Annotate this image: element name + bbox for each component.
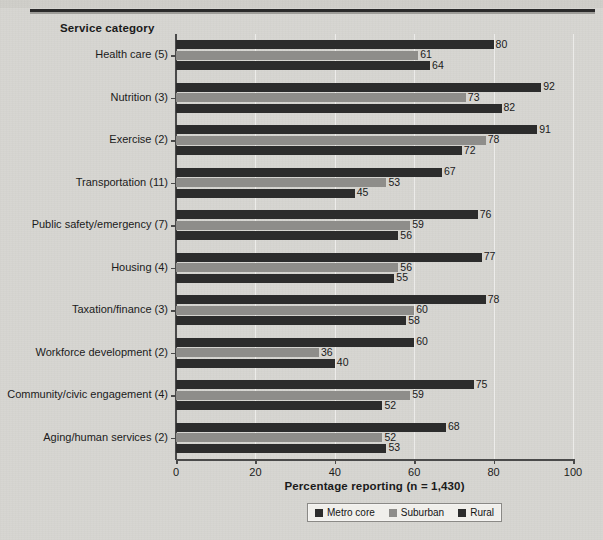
category-tick xyxy=(171,98,176,100)
chart-legend: Metro coreSuburbanRural xyxy=(307,503,502,522)
legend-swatch-icon xyxy=(389,509,397,517)
x-tick-label-40: 40 xyxy=(329,466,341,478)
category-label: Housing (4) xyxy=(0,261,168,273)
bar-value-label: 72 xyxy=(464,146,476,155)
bar-rural xyxy=(176,146,462,155)
category-tick xyxy=(171,183,176,185)
x-axis-line xyxy=(176,459,574,461)
category-label: Health care (5) xyxy=(0,48,168,60)
x-tick-100 xyxy=(573,459,575,464)
category-tick xyxy=(171,55,176,57)
bar-sub xyxy=(176,391,410,400)
bar-rural xyxy=(176,274,394,283)
bar-rural xyxy=(176,189,355,198)
bar-value-label: 92 xyxy=(543,82,555,91)
bar-value-label: 45 xyxy=(357,188,369,197)
bar-group: 685253 xyxy=(176,417,573,460)
bar-value-label: 82 xyxy=(504,103,516,112)
bar-value-label: 58 xyxy=(408,316,420,325)
bar-sub xyxy=(176,433,382,442)
bar-sub xyxy=(176,348,319,357)
bar-rural xyxy=(176,401,382,410)
bar-rural xyxy=(176,359,335,368)
bar-metro xyxy=(176,253,482,262)
bar-value-label: 52 xyxy=(384,401,396,410)
bar-rural xyxy=(176,316,406,325)
category-label: Community/civic engagement (4) xyxy=(0,388,168,400)
bar-sub xyxy=(176,178,386,187)
category-tick xyxy=(171,438,176,440)
bar-metro xyxy=(176,40,494,49)
bar-value-label: 55 xyxy=(396,273,408,282)
bar-rural xyxy=(176,61,430,70)
legend-label: Metro core xyxy=(327,507,375,518)
bar-metro xyxy=(176,338,414,347)
bar-sub xyxy=(176,221,410,230)
bar-rural xyxy=(176,444,386,453)
bar-value-label: 60 xyxy=(416,337,428,346)
legend-label: Rural xyxy=(470,507,494,518)
bar-group: 786058 xyxy=(176,289,573,332)
bar-group: 603640 xyxy=(176,332,573,375)
legend-label: Suburban xyxy=(401,507,444,518)
bar-value-label: 53 xyxy=(388,178,400,187)
top-rule-shadow xyxy=(30,12,595,14)
category-label: Public safety/emergency (7) xyxy=(0,218,168,230)
legend-swatch-icon xyxy=(458,509,466,517)
bar-metro xyxy=(176,295,486,304)
bar-sub xyxy=(176,306,414,315)
legend-item: Suburban xyxy=(389,507,444,518)
bar-value-label: 60 xyxy=(416,305,428,314)
bar-metro xyxy=(176,380,474,389)
bar-group: 675345 xyxy=(176,162,573,205)
bar-value-label: 53 xyxy=(388,443,400,452)
legend-swatch-icon xyxy=(315,509,323,517)
x-tick-label-60: 60 xyxy=(408,466,420,478)
figure-chart: Service category 806164Health care (5)92… xyxy=(0,0,603,540)
bar-metro xyxy=(176,423,446,432)
gridline-100 xyxy=(573,34,574,459)
bar-group: 806164 xyxy=(176,34,573,77)
bar-value-label: 73 xyxy=(468,93,480,102)
bar-rural xyxy=(176,104,502,113)
category-label: Transportation (11) xyxy=(0,176,168,188)
category-label: Exercise (2) xyxy=(0,133,168,145)
category-tick xyxy=(171,353,176,355)
y-axis-title: Service category xyxy=(60,22,154,34)
category-tick xyxy=(171,140,176,142)
x-tick-20 xyxy=(255,459,257,464)
category-tick xyxy=(171,395,176,397)
bar-value-label: 78 xyxy=(488,135,500,144)
bar-value-label: 91 xyxy=(539,125,551,134)
x-tick-label-100: 100 xyxy=(564,466,582,478)
bar-sub xyxy=(176,51,418,60)
legend-item: Metro core xyxy=(315,507,375,518)
plot-area: 806164Health care (5)927382Nutrition (3)… xyxy=(176,34,573,459)
bar-value-label: 59 xyxy=(412,220,424,229)
bar-metro xyxy=(176,125,537,134)
bar-value-label: 77 xyxy=(484,252,496,261)
x-tick-80 xyxy=(494,459,496,464)
bar-group: 765956 xyxy=(176,204,573,247)
category-tick xyxy=(171,310,176,312)
x-tick-60 xyxy=(414,459,416,464)
category-tick xyxy=(171,268,176,270)
bar-value-label: 68 xyxy=(448,422,460,431)
x-axis-title: Percentage reporting (n = 1,430) xyxy=(176,480,573,492)
bar-metro xyxy=(176,83,541,92)
bar-value-label: 61 xyxy=(420,50,432,59)
x-tick-label-20: 20 xyxy=(249,466,261,478)
bar-value-label: 56 xyxy=(400,231,412,240)
category-label: Workforce development (2) xyxy=(0,346,168,358)
category-label: Taxation/finance (3) xyxy=(0,303,168,315)
bar-sub xyxy=(176,93,466,102)
bar-value-label: 40 xyxy=(337,358,349,367)
category-tick xyxy=(171,225,176,227)
bar-group: 755952 xyxy=(176,374,573,417)
bar-group: 927382 xyxy=(176,77,573,120)
bar-value-label: 80 xyxy=(496,40,508,49)
bar-metro xyxy=(176,210,478,219)
bar-value-label: 59 xyxy=(412,390,424,399)
category-label: Nutrition (3) xyxy=(0,91,168,103)
x-tick-40 xyxy=(335,459,337,464)
